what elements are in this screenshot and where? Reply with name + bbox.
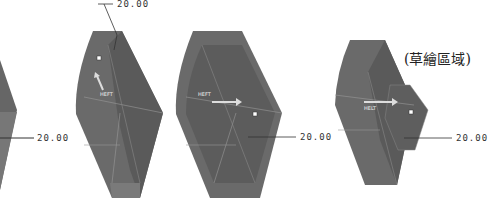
extrusion-view-1[interactable]: 20.00 (0, 60, 69, 190)
feature-tag: HELT (364, 105, 377, 111)
dimension-label[interactable]: 20.00 (300, 132, 332, 142)
extrusion-view-2[interactable]: 20.00 HEFT (76, 0, 163, 198)
solid-bottom (110, 183, 140, 198)
dimension-label[interactable]: 20.00 (37, 133, 69, 143)
drag-handle[interactable] (409, 110, 413, 114)
feature-tag: HEFT (198, 91, 212, 97)
dimension-label[interactable]: 20.00 (456, 133, 488, 143)
solid-face (0, 112, 17, 190)
drag-handle[interactable] (97, 56, 101, 60)
sketch-region-label: (草繪區域) (404, 48, 471, 68)
cad-canvas: 20.00 20.00 HEFT HEFT 20.00 (0, 0, 496, 208)
drag-handle[interactable] (253, 112, 257, 116)
feature-tag: HEFT (100, 91, 114, 97)
dimension-label[interactable]: 20.00 (117, 0, 149, 9)
extrusion-view-3[interactable]: HEFT 20.00 (176, 31, 332, 198)
